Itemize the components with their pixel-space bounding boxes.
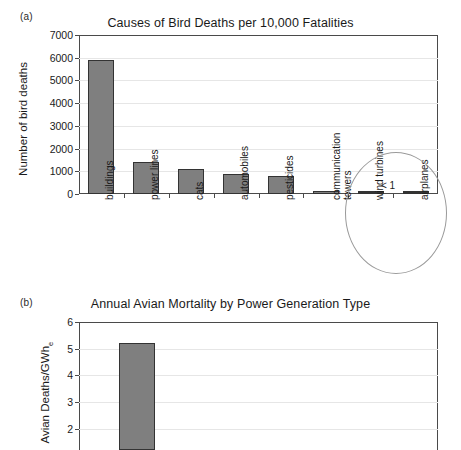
gridline (79, 80, 438, 81)
x-tick-mark (259, 194, 260, 198)
y-tick-mark (75, 349, 79, 350)
chart-b-title: Annual Avian Mortality by Power Generati… (0, 297, 461, 311)
y-tick-mark (75, 58, 79, 59)
y-tick-label: 5 (0, 343, 73, 355)
y-tick-label: 4000 (0, 97, 73, 109)
y-tick-label: 3000 (0, 120, 73, 132)
x-tick-mark (124, 194, 125, 198)
y-tick-label: 7000 (0, 29, 73, 41)
gridline (79, 126, 438, 127)
y-tick-label: 4 (0, 369, 73, 381)
x-tick-mark (393, 194, 394, 198)
x-tick-label: cats (195, 182, 206, 200)
y-tick-mark (75, 35, 79, 36)
x-tick-label: wind turbines (375, 141, 386, 200)
gridline (79, 103, 438, 104)
x-tick-label: power lines (150, 149, 161, 200)
y-tick-mark (75, 194, 79, 195)
bar (119, 343, 155, 450)
y-tick-mark (75, 429, 79, 430)
y-tick-label: 2 (0, 423, 73, 435)
y-tick-mark (75, 80, 79, 81)
y-tick-label: 6 (0, 316, 73, 328)
gridline (79, 58, 438, 59)
annotation-less-than-one: < 1 (381, 180, 395, 191)
x-tick-mark (169, 194, 170, 198)
y-tick-label: 0 (0, 188, 73, 200)
y-tick-label: 2000 (0, 143, 73, 155)
x-tick-mark (214, 194, 215, 198)
chart-b-plot-area (79, 322, 438, 450)
y-tick-mark (75, 171, 79, 172)
y-tick-mark (75, 103, 79, 104)
x-tick-label: automobiles (240, 146, 251, 200)
x-tick-label: buildings (105, 161, 116, 200)
y-tick-mark (75, 126, 79, 127)
y-tick-label: 3 (0, 396, 73, 408)
x-tick-label: communicationtowers (332, 133, 353, 200)
chart-a-title: Causes of Bird Deaths per 10,000 Fatalit… (0, 16, 461, 30)
y-tick-label: 6000 (0, 52, 73, 64)
x-tick-label: pesticides (285, 156, 296, 200)
panel-b: (b) Annual Avian Mortality by Power Gene… (0, 290, 461, 450)
x-tick-label: airplanes (420, 159, 431, 200)
x-tick-mark (303, 194, 304, 198)
y-tick-mark (75, 375, 79, 376)
y-tick-mark (75, 149, 79, 150)
y-tick-label: 1000 (0, 165, 73, 177)
y-tick-mark (75, 402, 79, 403)
y-tick-label: 5000 (0, 74, 73, 86)
panel-a: (a) Causes of Bird Deaths per 10,000 Fat… (0, 0, 461, 290)
y-tick-mark (75, 322, 79, 323)
